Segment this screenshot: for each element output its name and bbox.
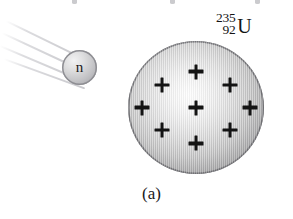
isotope-label: 235 92 U xyxy=(216,12,252,37)
neutron-label: n xyxy=(76,60,84,76)
isotope-atomic-number: 92 xyxy=(223,24,236,36)
proton-plus-icon xyxy=(242,100,257,115)
proton-plus-icon xyxy=(223,123,238,138)
text-remnant xyxy=(170,0,175,4)
uranium-nucleus xyxy=(128,41,264,174)
proton-plus-icon xyxy=(155,77,170,92)
proton-plus-icon xyxy=(135,100,150,115)
figure-caption-text: (a) xyxy=(142,184,161,203)
proton-plus-icon xyxy=(155,123,170,138)
isotope-element-symbol: U xyxy=(237,13,251,36)
proton-plus-icon xyxy=(189,64,204,79)
fission-diagram-figure: n 235 92 U (a) xyxy=(0,0,293,219)
isotope-numbers: 235 92 xyxy=(216,12,237,37)
top-text-remnants xyxy=(0,0,293,8)
proton-plus-icon xyxy=(223,77,238,92)
proton-plus-icon xyxy=(189,100,204,115)
neutron-particle: n xyxy=(62,50,97,85)
text-remnant xyxy=(72,0,77,4)
text-remnant xyxy=(255,0,260,4)
figure-caption: (a) xyxy=(0,184,293,204)
proton-plus-icon xyxy=(189,136,204,151)
